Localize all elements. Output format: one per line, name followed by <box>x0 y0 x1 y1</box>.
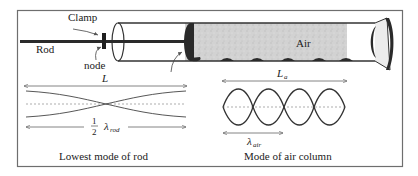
fraction-denominator: 2 <box>92 127 97 137</box>
caption-air: Mode of air column <box>244 150 332 162</box>
air-length-symbol: L <box>276 67 283 79</box>
clamp <box>102 33 106 49</box>
lambda-subscript: rod <box>110 126 120 134</box>
lambda-symbol: λ <box>246 135 252 147</box>
rod-label: Rod <box>36 43 55 55</box>
lambda-symbol: λ <box>103 120 109 132</box>
air-label: Air <box>296 37 311 49</box>
air-length-subscript: a <box>284 73 288 81</box>
kundt-tube-diagram: Clamp Rod node Air L 1 2 λ rod Lowest mo… <box>0 0 418 176</box>
lambda-subscript: air <box>253 141 261 149</box>
air-column <box>185 23 347 61</box>
fraction-numerator: 1 <box>92 116 97 126</box>
caption-rod: Lowest mode of rod <box>59 150 148 162</box>
clamp-label: Clamp <box>68 11 98 23</box>
node-label: node <box>84 59 106 71</box>
rod-length-label: L <box>101 72 108 84</box>
